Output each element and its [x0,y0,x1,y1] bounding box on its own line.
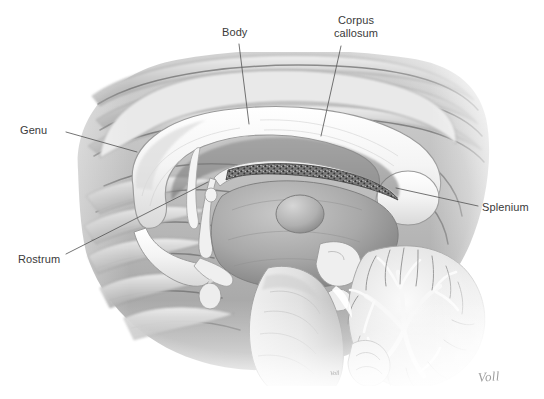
brain-anatomy-figure: Genu Body Corpus callosum Splenium Rostr… [0,0,544,399]
label-body: Body [222,26,247,39]
label-splenium: Splenium [482,201,529,214]
artist-signature-small: Voll [330,370,340,377]
label-genu: Genu [20,124,47,137]
label-corpus-callosum: Corpus callosum [326,14,386,39]
label-rostrum: Rostrum [18,253,60,266]
brain-illustration [0,0,544,399]
artist-signature: Voll [478,368,501,385]
